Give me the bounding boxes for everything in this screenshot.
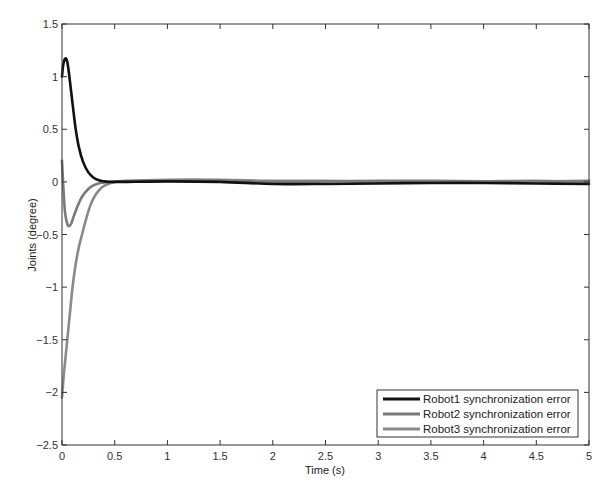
y-tick-label: 0.5: [43, 123, 58, 135]
legend-label: Robot3 synchronization error: [423, 423, 571, 435]
y-tick-label: −2: [45, 386, 58, 398]
x-tick-label: 0.5: [107, 450, 122, 462]
y-axis-label: Joints (degree): [26, 198, 38, 271]
y-tick-label: 0: [52, 176, 58, 188]
y-tick-label: −0.5: [36, 229, 58, 241]
y-tick-label: −2.5: [36, 439, 58, 451]
legend-label: Robot2 synchronization error: [423, 408, 571, 420]
legend: Robot1 synchronization error Robot2 sync…: [377, 390, 578, 437]
legend-label: Robot1 synchronization error: [423, 393, 571, 405]
x-tick-label: 0: [59, 450, 65, 462]
x-tick-label: 5: [586, 450, 592, 462]
y-tick-label: 1.5: [43, 18, 58, 30]
x-tick-label: 4.5: [529, 450, 544, 462]
plot-area: [62, 24, 589, 445]
x-tick-label: 2.5: [318, 450, 333, 462]
x-tick-label: 4: [481, 450, 487, 462]
y-tick-label: −1.5: [36, 334, 58, 346]
x-tick-label: 2: [270, 450, 276, 462]
line-chart: 00.511.522.533.544.55 1.510.50−0.5−1−1.5…: [0, 0, 608, 492]
x-tick-label: 1.5: [212, 450, 227, 462]
x-tick-label: 3: [375, 450, 381, 462]
x-axis-label: Time (s): [305, 464, 345, 476]
x-tick-label: 3.5: [423, 450, 438, 462]
x-tick-label: 1: [164, 450, 170, 462]
y-tick-label: −1: [45, 281, 58, 293]
y-tick-label: 1: [52, 71, 58, 83]
